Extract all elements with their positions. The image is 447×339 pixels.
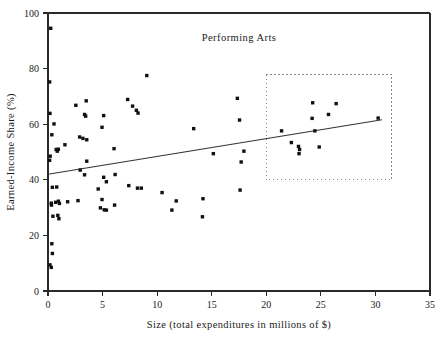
data-point (238, 188, 241, 191)
y-tick-label: 60 (29, 119, 39, 130)
data-point (48, 159, 51, 162)
data-point (290, 141, 293, 144)
y-axis-ticks: 020406080100 (24, 8, 48, 297)
data-point (105, 180, 108, 183)
data-point (318, 145, 321, 148)
y-tick-label: 100 (24, 8, 39, 19)
x-tick-label: 5 (100, 299, 105, 310)
data-point (236, 97, 239, 100)
data-point (145, 74, 148, 77)
y-tick-label: 20 (29, 230, 39, 241)
data-point (85, 159, 88, 162)
data-point (85, 99, 88, 102)
data-point (57, 217, 60, 220)
data-point (140, 186, 143, 189)
data-point (49, 27, 52, 30)
y-axis-title: Earned-Income Share (%) (5, 93, 17, 211)
data-point (131, 104, 134, 107)
data-point (102, 114, 105, 117)
data-point (76, 199, 79, 202)
data-point (113, 203, 116, 206)
data-point (50, 242, 53, 245)
x-tick-label: 0 (46, 299, 51, 310)
data-point (85, 138, 88, 141)
data-point (136, 186, 139, 189)
x-tick-label: 35 (425, 299, 435, 310)
data-point (83, 173, 86, 176)
data-point (298, 148, 301, 151)
data-point (242, 149, 245, 152)
x-axis-ticks: 05101520253035 (46, 291, 436, 310)
data-point (136, 111, 139, 114)
chart-figure: 020406080100 05101520253035 Performing A… (0, 0, 447, 339)
data-point (376, 116, 379, 119)
data-point (58, 202, 61, 205)
x-tick-label: 20 (261, 299, 271, 310)
data-point (113, 173, 116, 176)
data-point (57, 148, 60, 151)
data-point (201, 215, 204, 218)
data-point (112, 147, 115, 150)
data-point (50, 203, 53, 206)
data-point (56, 214, 59, 217)
data-point (100, 126, 103, 129)
x-tick-label: 15 (207, 299, 217, 310)
data-point (105, 208, 108, 211)
data-point (310, 117, 313, 120)
data-point (297, 152, 300, 155)
data-point (334, 102, 337, 105)
data-point (280, 129, 283, 132)
data-point (78, 135, 81, 138)
data-point (175, 199, 178, 202)
data-point (102, 176, 105, 179)
scatter-plot-canvas: 020406080100 05101520253035 Performing A… (0, 0, 447, 339)
x-tick-label: 10 (152, 299, 162, 310)
data-point (63, 143, 66, 146)
y-tick-label: 80 (29, 63, 39, 74)
regression-trend-line (48, 120, 382, 174)
data-point (78, 168, 81, 171)
data-point (51, 252, 54, 255)
data-point (297, 145, 300, 148)
data-point (238, 118, 241, 121)
data-point (127, 184, 130, 187)
data-point (48, 112, 51, 115)
data-point (99, 206, 102, 209)
data-point (311, 101, 314, 104)
data-point (48, 80, 51, 83)
data-point (74, 104, 77, 107)
data-point (170, 208, 173, 211)
x-axis-title: Size (total expenditures in millions of … (147, 319, 332, 331)
data-point (126, 98, 129, 101)
data-point (192, 127, 195, 130)
data-point (52, 122, 55, 125)
data-point (327, 113, 330, 116)
data-point (160, 191, 163, 194)
data-point (212, 152, 215, 155)
data-point (66, 200, 69, 203)
data-point (239, 160, 242, 163)
data-point (201, 197, 204, 200)
y-tick-label: 40 (29, 174, 39, 185)
x-tick-label: 30 (370, 299, 380, 310)
data-point (51, 215, 54, 218)
data-point (50, 266, 53, 269)
y-tick-label: 0 (34, 286, 39, 297)
data-point (81, 137, 84, 140)
x-tick-label: 25 (316, 299, 326, 310)
data-point (97, 187, 100, 190)
data-point (84, 114, 87, 117)
data-point-group (48, 27, 380, 269)
data-point (55, 185, 58, 188)
data-point (100, 198, 103, 201)
data-point (48, 154, 51, 157)
data-point (51, 186, 54, 189)
data-point (313, 129, 316, 132)
highlight-region-box (266, 75, 392, 180)
data-point (50, 133, 53, 136)
chart-title: Performing Arts (202, 32, 277, 43)
